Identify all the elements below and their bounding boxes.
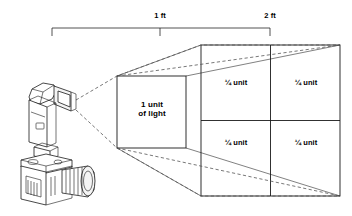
four-quarter-unit-square: [201, 45, 340, 196]
distance-scale-bracket: [52, 28, 270, 36]
quarter-unit-label-top-left: ¼ unit: [208, 79, 264, 88]
flash-window: [54, 86, 76, 111]
one-unit-of-light-label: 1 unitof light: [122, 100, 182, 118]
quarter-unit-label-top-right: ¼ unit: [278, 79, 334, 88]
one-unit-line-1: 1 unit: [141, 100, 163, 109]
distance-label-2ft: 2 ft: [253, 12, 287, 21]
camera-flash-unit: [21, 83, 95, 205]
one-unit-line-2: of light: [138, 109, 165, 118]
flash-head: [29, 83, 56, 104]
camera-lens: [62, 166, 95, 197]
distance-label-1ft: 1 ft: [143, 12, 177, 21]
inverse-square-law-diagram: .ln { fill: none; stroke: #1a1a1a; strok…: [0, 0, 352, 216]
flash-body: [29, 96, 56, 147]
quarter-unit-label-bottom-right: ¼ unit: [278, 139, 334, 148]
quarter-unit-label-bottom-left: ¼ unit: [208, 139, 264, 148]
